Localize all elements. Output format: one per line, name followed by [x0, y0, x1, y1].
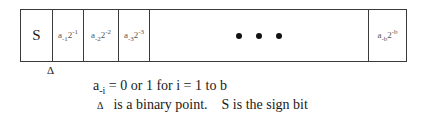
bit-term-1: a-12-1: [58, 29, 78, 43]
binary-point-description: is a binary point.: [113, 97, 207, 112]
ellipsis-dot: [276, 33, 282, 39]
legend-binary-point-definition: Δis a binary point.S is the sign bit: [97, 97, 308, 113]
ellipsis-dot: [256, 33, 262, 39]
bit-term-last: a-b2-b: [377, 29, 397, 43]
bit-cell-last: a-b2-b: [369, 10, 406, 61]
sign-bit-description: S is the sign bit: [222, 97, 308, 112]
bit-term-2: a-22-2: [91, 29, 111, 43]
ellipsis-dot: [236, 33, 242, 39]
ellipsis-dots: [236, 33, 282, 39]
bit-cell-2: a-22-2: [84, 10, 119, 61]
bit-term-3: a-32-3: [124, 29, 144, 43]
sign-bit-cell: S: [21, 10, 53, 61]
fixed-point-register: S a-12-1 a-22-2 a-32-3 a-b2-b: [20, 9, 407, 62]
sign-bit-label: S: [32, 27, 40, 44]
ellipsis-cell: [150, 10, 369, 61]
bit-cell-3: a-32-3: [119, 10, 150, 61]
legend-coefficient-definition: a-i = 0 or 1 for i = 1 to b: [93, 78, 227, 96]
binary-point-marker-icon: Δ: [47, 65, 54, 76]
binary-point-legend-icon: Δ: [97, 100, 103, 111]
bit-cell-1: a-12-1: [53, 10, 84, 61]
